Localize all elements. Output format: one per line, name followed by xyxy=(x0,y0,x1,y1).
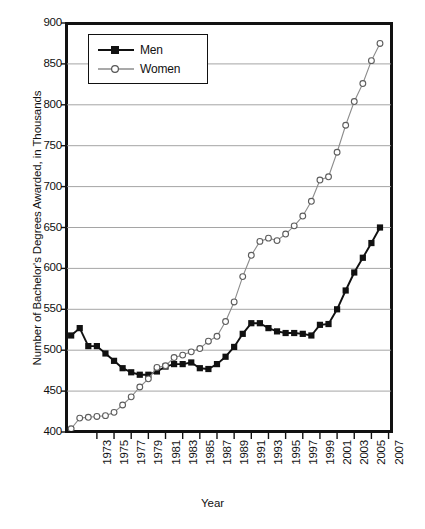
legend-label-men: Men xyxy=(140,43,163,57)
legend-label-women: Women xyxy=(140,62,180,76)
chart-canvas xyxy=(0,0,425,529)
chart-legend: Men Women xyxy=(88,34,208,84)
legend-item-women: Women xyxy=(89,59,207,78)
bachelors-degrees-line-chart: 400450500550600650700750800850900 Number… xyxy=(0,0,425,529)
men-marker-icon xyxy=(97,43,135,57)
women-marker-icon xyxy=(97,62,135,76)
legend-item-men: Men xyxy=(89,40,207,59)
figure-caption xyxy=(10,518,415,528)
